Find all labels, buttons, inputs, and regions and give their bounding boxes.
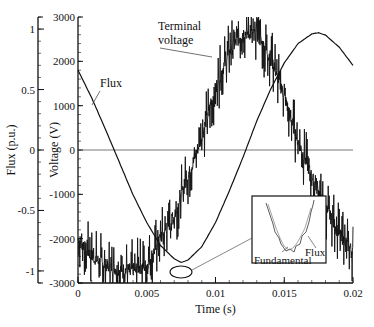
inset-fundamental-label: Fundamental — [254, 254, 311, 266]
chart: 3000200010000-1000-2000-300000.0050.010.… — [0, 0, 374, 327]
voltage-tick-label: 0 — [70, 144, 76, 156]
x-tick-label: 0 — [75, 287, 81, 299]
x-tick-label: 0.015 — [272, 287, 297, 299]
flux-tick-label: 0.5 — [21, 84, 35, 96]
voltage-tick-label: 2000 — [53, 55, 76, 67]
flux-tick-label: -0.5 — [18, 204, 36, 216]
x-tick-label: 0.02 — [343, 287, 362, 299]
voltage-tick-label: -2000 — [49, 233, 75, 245]
annotations: Flux Terminal voltage Flux Fundamental — [92, 19, 326, 278]
flux-tick-label: -1 — [26, 265, 35, 277]
voltage-tick-label: 3000 — [53, 11, 76, 23]
x-tick-label: 0.01 — [206, 287, 225, 299]
voltage-annotation-line1: Terminal — [158, 19, 202, 33]
voltage-tick-label: -3000 — [49, 277, 75, 289]
voltage-tick-label: -1000 — [49, 188, 75, 200]
flux-axis-label: Flux (p.u.) — [4, 124, 18, 175]
voltage-tick-label: 1000 — [53, 100, 76, 112]
zoom-ellipse — [170, 266, 192, 278]
voltage-annotation-line2: voltage — [158, 33, 193, 47]
flux-tick-label: 1 — [30, 23, 36, 35]
flux-tick-label: 0 — [30, 144, 36, 156]
voltage-axis-label: Voltage (V) — [47, 122, 61, 178]
flux-annotation: Flux — [100, 76, 122, 90]
x-tick-label: 0.005 — [134, 287, 159, 299]
x-axis-label: Time (s) — [195, 302, 236, 316]
